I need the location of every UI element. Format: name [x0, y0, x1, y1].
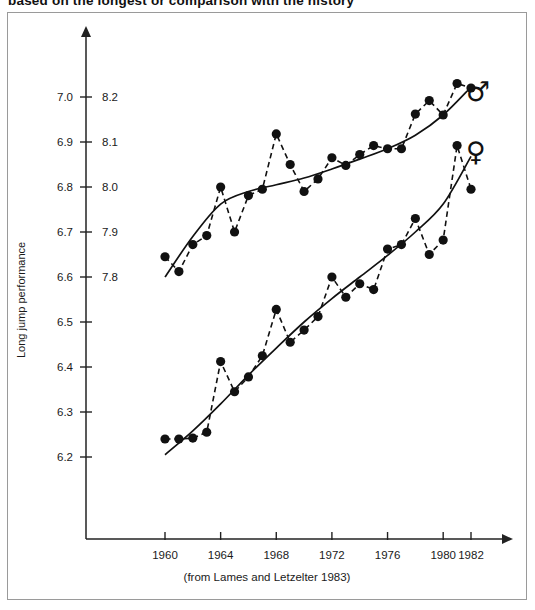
- data-point: [286, 338, 295, 347]
- legend-symbol-female: ♀: [466, 136, 486, 167]
- y-tick-label-left: 7.0: [57, 91, 73, 103]
- data-point: [341, 293, 350, 302]
- y-tick-label-right: 7.8: [102, 271, 118, 283]
- y-tick-label-left: 6.7: [57, 226, 73, 238]
- y-axis-title: Long jump performance: [15, 242, 27, 358]
- data-point: [299, 187, 308, 196]
- data-point: [244, 191, 253, 200]
- data-point: [160, 434, 169, 443]
- data-point: [202, 428, 211, 437]
- x-tick-label: 1980: [430, 549, 456, 561]
- data-point: [397, 144, 406, 153]
- y-axis-ticks-right: 7.87.98.08.18.2: [102, 91, 118, 283]
- data-point: [202, 231, 211, 240]
- series-men: [160, 79, 475, 277]
- x-tick-label: 1972: [319, 549, 345, 561]
- data-point: [355, 279, 364, 288]
- y-tick-label-right: 7.9: [102, 226, 118, 238]
- data-point: [272, 305, 281, 314]
- data-point: [216, 182, 225, 191]
- data-point: [160, 252, 169, 261]
- data-point: [286, 160, 295, 169]
- y-tick-label-left: 6.2: [57, 451, 73, 463]
- data-point: [216, 357, 225, 366]
- figure-frame: 6.26.36.46.56.66.76.86.97.0 7.87.98.08.1…: [7, 12, 527, 600]
- data-point: [411, 214, 420, 223]
- data-point: [327, 272, 336, 281]
- y-tick-label-left: 6.8: [57, 181, 73, 193]
- y-tick-label-left: 6.9: [57, 136, 73, 148]
- y-tick-label-left: 6.4: [57, 361, 74, 373]
- data-point: [174, 267, 183, 276]
- data-point: [452, 141, 461, 150]
- data-point: [313, 174, 322, 183]
- y-tick-label-right: 8.2: [102, 91, 118, 103]
- clipped-heading-text: based on the longest or comparison with …: [8, 0, 528, 9]
- data-point: [452, 79, 461, 88]
- data-point: [258, 351, 267, 360]
- data-point: [313, 312, 322, 321]
- data-point: [341, 161, 350, 170]
- long-jump-performance-chart: 6.26.36.46.56.66.76.86.97.0 7.87.98.08.1…: [8, 13, 526, 599]
- data-point: [369, 285, 378, 294]
- data-point: [439, 110, 448, 119]
- x-axis-arrowhead: [502, 534, 513, 544]
- x-tick-label: 1976: [375, 549, 401, 561]
- y-axis-arrowhead: [81, 26, 91, 37]
- data-point: [439, 236, 448, 245]
- y-tick-label-left: 6.6: [57, 271, 73, 283]
- data-point: [369, 141, 378, 150]
- y-tick-label-left: 6.3: [57, 406, 73, 418]
- data-point: [244, 372, 253, 381]
- x-tick-label: 1960: [152, 549, 178, 561]
- data-point: [383, 144, 392, 153]
- y-tick-label-right: 8.1: [102, 136, 118, 148]
- data-point: [272, 129, 281, 138]
- data-point: [258, 185, 267, 194]
- data-point: [188, 434, 197, 443]
- data-point: [397, 240, 406, 249]
- figure-caption: (from Lames and Letzelter 1983): [184, 571, 351, 583]
- data-point: [174, 434, 183, 443]
- data-point: [355, 150, 364, 159]
- x-tick-label: 1982: [458, 549, 484, 561]
- x-axis-ticks: 1960196419681972197619801982: [152, 532, 484, 561]
- legend-symbol-male: ♂: [466, 76, 490, 107]
- data-point: [466, 185, 475, 194]
- x-tick-label: 1968: [263, 549, 289, 561]
- data-point: [425, 96, 434, 105]
- y-tick-label-left: 6.5: [57, 316, 73, 328]
- data-point: [425, 250, 434, 259]
- data-point: [230, 387, 239, 396]
- data-point: [299, 326, 308, 335]
- data-point: [230, 227, 239, 236]
- data-point: [327, 153, 336, 162]
- dashed-connector-women: [165, 146, 471, 439]
- data-point: [188, 240, 197, 249]
- x-tick-label: 1964: [208, 549, 234, 561]
- y-tick-label-right: 8.0: [102, 181, 118, 193]
- series-women: [160, 141, 475, 455]
- data-point: [411, 110, 420, 119]
- series-layer: [160, 79, 475, 455]
- data-point: [383, 245, 392, 254]
